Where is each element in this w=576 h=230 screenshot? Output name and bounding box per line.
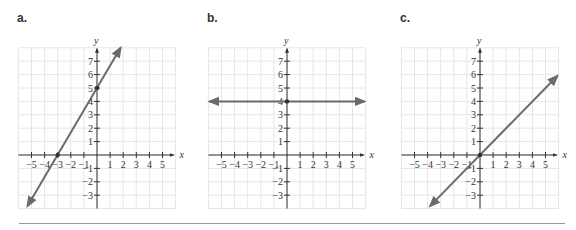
y-tick-label: 3 — [471, 109, 476, 120]
x-tick-label: 2 — [504, 159, 509, 170]
y-tick-label: −2 — [272, 176, 283, 187]
x-tick-label: −4 — [229, 159, 240, 170]
coordinate-plane: −5−4−3−2−112345−3−2−11234567xy — [383, 0, 575, 220]
x-tick-label: −2 — [448, 159, 459, 170]
x-tick-label: 5 — [543, 159, 548, 170]
x-tick-label: −5 — [409, 159, 420, 170]
x-tick-label: −5 — [216, 159, 227, 170]
data-point — [56, 153, 60, 157]
y-tick-label: −2 — [465, 176, 476, 187]
x-tick-label: 5 — [350, 159, 355, 170]
x-axis-label: x — [179, 149, 185, 160]
y-tick-label: 7 — [278, 56, 283, 67]
data-point — [478, 153, 482, 157]
x-tick-label: 1 — [108, 159, 113, 170]
y-tick-label: 6 — [471, 69, 476, 80]
y-tick-label: 5 — [278, 83, 283, 94]
y-tick-label: −3 — [82, 190, 93, 201]
x-tick-label: 4 — [337, 159, 342, 170]
x-tick-label: −5 — [26, 159, 37, 170]
y-tick-label: 4 — [471, 96, 476, 107]
x-tick-label: 1 — [491, 159, 496, 170]
y-tick-label: −2 — [82, 176, 93, 187]
x-tick-label: 3 — [517, 159, 522, 170]
y-tick-label: −1 — [82, 163, 93, 174]
x-tick-label: 3 — [324, 159, 329, 170]
data-point — [285, 99, 289, 103]
y-tick-label: 6 — [88, 69, 93, 80]
y-tick-label: 5 — [471, 83, 476, 94]
y-tick-label: −3 — [272, 190, 283, 201]
y-tick-label: 2 — [88, 123, 93, 134]
x-tick-label: 5 — [160, 159, 165, 170]
x-tick-label: 2 — [121, 159, 126, 170]
y-tick-label: 6 — [278, 69, 283, 80]
x-tick-label: 3 — [134, 159, 139, 170]
y-tick-label: 2 — [278, 123, 283, 134]
graph-panel-c: c. −5−4−3−2−112345−3−2−11234567xy — [383, 0, 575, 220]
y-tick-label: 7 — [471, 56, 476, 67]
y-tick-label: 1 — [88, 136, 93, 147]
y-tick-label: −1 — [272, 163, 283, 174]
y-axis-label: y — [283, 35, 289, 46]
graph-panel-b: b. −5−4−3−2−112345−3−2−11234567xy — [190, 0, 382, 220]
x-tick-label: −2 — [255, 159, 266, 170]
x-tick-label: 4 — [530, 159, 535, 170]
x-tick-label: −4 — [39, 159, 50, 170]
x-axis-label: x — [562, 149, 568, 160]
x-tick-label: −3 — [435, 159, 446, 170]
x-axis-label: x — [369, 149, 375, 160]
y-tick-label: 1 — [471, 136, 476, 147]
x-tick-label: 1 — [298, 159, 303, 170]
x-tick-label: −3 — [242, 159, 253, 170]
y-tick-label: 3 — [278, 109, 283, 120]
y-tick-label: 5 — [88, 83, 93, 94]
coordinate-plane: −5−4−3−2−112345−3−2−11234567xy — [190, 0, 382, 220]
divider-line — [19, 223, 565, 224]
x-tick-label: 2 — [311, 159, 316, 170]
graph-line — [430, 76, 557, 206]
y-tick-label: 7 — [88, 56, 93, 67]
y-tick-label: 3 — [88, 109, 93, 120]
y-axis-label: y — [93, 35, 99, 46]
y-tick-label: −3 — [465, 190, 476, 201]
x-tick-label: 4 — [147, 159, 152, 170]
y-axis-label: y — [476, 35, 482, 46]
graph-panel-a: a. −5−4−3−2−112345−3−2−11234567xy — [0, 0, 192, 220]
x-tick-label: −4 — [422, 159, 433, 170]
x-tick-label: −2 — [65, 159, 76, 170]
coordinate-plane: −5−4−3−2−112345−3−2−11234567xy — [0, 0, 192, 220]
y-tick-label: 2 — [471, 123, 476, 134]
data-point — [95, 86, 99, 90]
y-tick-label: 1 — [278, 136, 283, 147]
